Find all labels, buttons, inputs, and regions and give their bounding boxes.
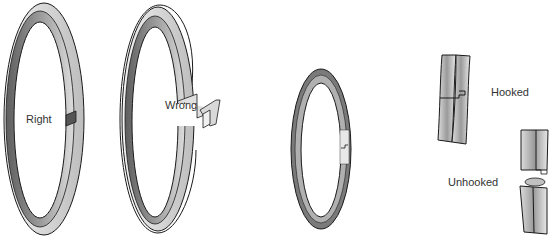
label-hooked: Hooked: [491, 86, 529, 98]
diagram-canvas: [0, 0, 552, 239]
label-wrong: Wrong: [165, 99, 197, 111]
unhooked-segment: [520, 130, 548, 234]
label-unhooked: Unhooked: [448, 176, 498, 188]
ring-hooked: [291, 69, 351, 229]
label-right: Right: [26, 113, 52, 125]
hooked-segment: [438, 55, 470, 144]
ring-wrong: [120, 5, 220, 233]
